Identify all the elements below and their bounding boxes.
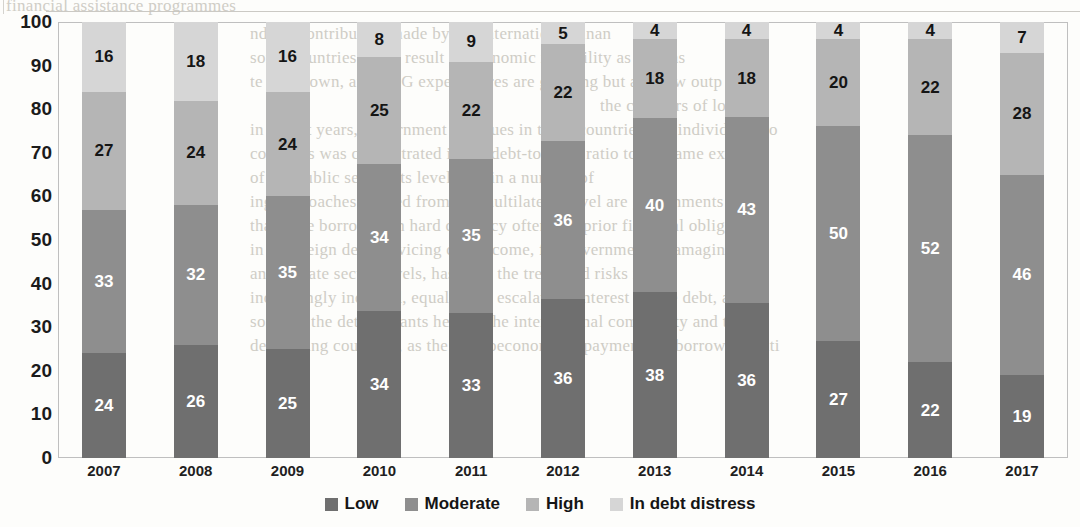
bar-segment-low[interactable]: 19 — [1000, 375, 1044, 458]
legend-item-low[interactable]: Low — [325, 494, 379, 514]
bar-segment-high[interactable]: 22 — [541, 44, 585, 141]
stacked-bar-2011[interactable]: 9223533 — [449, 22, 493, 458]
bar-segment-value: 20 — [829, 74, 848, 91]
bar-segment-high[interactable]: 18 — [633, 39, 677, 117]
bar-segment-value: 4 — [925, 22, 934, 39]
bar-segment-low[interactable]: 38 — [633, 292, 677, 458]
legend-item-high[interactable]: High — [526, 494, 584, 514]
bar-segment-value: 36 — [554, 370, 573, 387]
bar-segment-value: 36 — [554, 212, 573, 229]
stacked-bar-2017[interactable]: 7284619 — [1000, 22, 1044, 458]
bar-segment-value: 22 — [462, 102, 481, 119]
legend-label: Low — [345, 494, 379, 514]
bar-segment-in-debt-distress[interactable]: 8 — [357, 22, 401, 57]
bar-segment-high[interactable]: 20 — [816, 39, 860, 125]
stacked-bar-2010[interactable]: 8253434 — [357, 22, 401, 458]
bar-segment-in-debt-distress[interactable]: 16 — [266, 22, 310, 92]
bar-segment-value: 24 — [94, 397, 113, 414]
bar-column[interactable]: 4205027 — [793, 22, 885, 458]
bar-segment-low[interactable]: 27 — [816, 341, 860, 458]
bar-column[interactable]: 18243226 — [150, 22, 242, 458]
bar-segment-in-debt-distress[interactable]: 5 — [541, 22, 585, 44]
bar-segment-low[interactable]: 36 — [541, 299, 585, 458]
bar-segment-low[interactable]: 33 — [449, 313, 493, 458]
bar-segment-in-debt-distress[interactable]: 18 — [174, 22, 218, 100]
x-axis-tick-label: 2013 — [609, 462, 701, 484]
legend-item-moderate[interactable]: Moderate — [405, 494, 501, 514]
y-axis-tick-label: 100 — [0, 11, 52, 33]
bar-column[interactable]: 8253434 — [333, 22, 425, 458]
bar-segment-high[interactable]: 22 — [449, 62, 493, 159]
bar-segment-value: 36 — [737, 372, 756, 389]
bar-segment-value: 50 — [829, 225, 848, 242]
bar-segment-in-debt-distress[interactable]: 16 — [82, 22, 126, 92]
bar-segment-high[interactable]: 28 — [1000, 53, 1044, 175]
bar-segment-value: 22 — [554, 84, 573, 101]
legend-label: High — [546, 494, 584, 514]
y-axis-tick-label: 80 — [0, 98, 52, 120]
bar-segment-low[interactable]: 34 — [357, 311, 401, 458]
bar-column[interactable]: 16243525 — [242, 22, 334, 458]
stacked-bar-2013[interactable]: 4184038 — [633, 22, 677, 458]
stacked-bar-chart: 1009080706050403020100 16273324182432261… — [0, 0, 1080, 527]
bar-column[interactable]: 4184336 — [701, 22, 793, 458]
bar-segment-in-debt-distress[interactable]: 7 — [1000, 22, 1044, 53]
bar-segment-high[interactable]: 22 — [908, 39, 952, 135]
stacked-bar-2014[interactable]: 4184336 — [725, 22, 769, 458]
stacked-bar-2008[interactable]: 18243226 — [174, 22, 218, 458]
bar-segment-value: 24 — [186, 144, 205, 161]
bar-segment-value: 18 — [186, 53, 205, 70]
bar-column[interactable]: 9223533 — [425, 22, 517, 458]
bar-segment-high[interactable]: 18 — [725, 39, 769, 117]
bar-segment-moderate[interactable]: 33 — [82, 210, 126, 354]
bar-segment-moderate[interactable]: 36 — [541, 141, 585, 300]
bar-segment-in-debt-distress[interactable]: 9 — [449, 22, 493, 62]
stacked-bar-2016[interactable]: 4225222 — [908, 22, 952, 458]
stacked-bar-2009[interactable]: 16243525 — [266, 22, 310, 458]
bar-segment-high[interactable]: 25 — [357, 57, 401, 165]
bar-column[interactable]: 5223636 — [517, 22, 609, 458]
bar-segment-low[interactable]: 22 — [908, 362, 952, 458]
stacked-bar-2012[interactable]: 5223636 — [541, 22, 585, 458]
y-axis-tick-label: 10 — [0, 403, 52, 425]
bar-segment-moderate[interactable]: 43 — [725, 117, 769, 303]
y-axis-tick-label: 90 — [0, 55, 52, 77]
bar-segment-moderate[interactable]: 40 — [633, 118, 677, 292]
bar-column[interactable]: 4184038 — [609, 22, 701, 458]
bar-segment-low[interactable]: 24 — [82, 353, 126, 458]
bar-segment-low[interactable]: 25 — [266, 349, 310, 458]
bar-segment-moderate[interactable]: 35 — [266, 196, 310, 349]
bar-segment-high[interactable]: 27 — [82, 92, 126, 210]
bar-segment-moderate[interactable]: 32 — [174, 205, 218, 345]
y-axis-tick-label: 30 — [0, 316, 52, 338]
bar-columns: 1627332418243226162435258253434922353352… — [58, 22, 1068, 458]
bar-segment-value: 4 — [834, 22, 843, 39]
bar-segment-low[interactable]: 26 — [174, 345, 218, 458]
bar-segment-moderate[interactable]: 50 — [816, 126, 860, 342]
stacked-bar-2007[interactable]: 16273324 — [82, 22, 126, 458]
bar-segment-high[interactable]: 24 — [174, 101, 218, 206]
bar-segment-value: 9 — [466, 33, 475, 50]
bar-segment-moderate[interactable]: 34 — [357, 164, 401, 311]
bar-segment-high[interactable]: 24 — [266, 92, 310, 197]
bar-segment-moderate[interactable]: 46 — [1000, 175, 1044, 376]
bar-segment-low[interactable]: 36 — [725, 303, 769, 458]
bar-segment-moderate[interactable]: 52 — [908, 135, 952, 362]
bar-column[interactable]: 7284619 — [976, 22, 1068, 458]
legend-item-in-debt-distress[interactable]: In debt distress — [610, 494, 756, 514]
bar-segment-value: 52 — [921, 240, 940, 257]
bar-segment-in-debt-distress[interactable]: 4 — [816, 22, 860, 39]
bar-segment-value: 25 — [370, 102, 389, 119]
bar-column[interactable]: 16273324 — [58, 22, 150, 458]
bar-segment-value: 28 — [1013, 105, 1032, 122]
x-axis-tick-label: 2012 — [517, 462, 609, 484]
bar-segment-value: 35 — [278, 264, 297, 281]
bar-segment-value: 16 — [278, 48, 297, 65]
bar-segment-in-debt-distress[interactable]: 4 — [725, 22, 769, 39]
bar-segment-in-debt-distress[interactable]: 4 — [633, 22, 677, 39]
bar-segment-in-debt-distress[interactable]: 4 — [908, 22, 952, 39]
stacked-bar-2015[interactable]: 4205027 — [816, 22, 860, 458]
bar-column[interactable]: 4225222 — [884, 22, 976, 458]
bar-segment-moderate[interactable]: 35 — [449, 159, 493, 313]
y-axis-tick-label: 50 — [0, 229, 52, 251]
